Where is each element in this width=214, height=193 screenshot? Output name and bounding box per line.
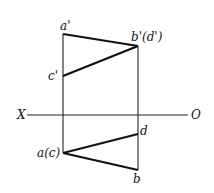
label-a-c: a(c) — [37, 146, 61, 160]
label-b: b — [133, 172, 141, 186]
edge-a-d — [63, 134, 138, 153]
label-b-prime-d-prime: b'(d') — [131, 30, 163, 44]
label-axis-x: X — [16, 108, 26, 122]
label-a-prime: a' — [60, 19, 70, 33]
label-d: d — [140, 124, 148, 138]
edge-a-b — [63, 153, 138, 170]
projection-diagram: a' b'(d') c' X O d a(c) b — [0, 0, 214, 193]
label-c-prime: c' — [48, 69, 58, 83]
edge-c-prime-b-prime — [63, 46, 138, 76]
edge-a-prime-b-prime — [63, 34, 138, 46]
label-axis-o: O — [191, 108, 201, 122]
